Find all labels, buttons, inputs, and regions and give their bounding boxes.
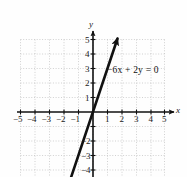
y-tick-label-minus2: −2 xyxy=(81,137,91,146)
x-tick-label-5: 5 xyxy=(162,115,167,124)
x-tick-label-1: 1 xyxy=(105,115,110,124)
x-tick-label-minus1: −1 xyxy=(71,115,81,124)
graph-figure: −5 −4 −3 −2 −1 1 2 3 4 5 1 2 3 4 5 −2 −3… xyxy=(0,0,187,177)
y-tick-label-1: 1 xyxy=(85,94,90,103)
y-axis-label: y xyxy=(89,20,93,29)
y-tick-label-5: 5 xyxy=(85,36,90,45)
x-tick-label-3: 3 xyxy=(134,115,139,124)
x-tick-label-minus2: −2 xyxy=(56,115,66,124)
plotted-line xyxy=(71,39,118,178)
x-tick-label-minus3: −3 xyxy=(42,115,52,124)
x-tick-label-minus5: −5 xyxy=(13,115,23,124)
y-tick-label-minus4: −4 xyxy=(81,166,91,175)
x-axis-label: x xyxy=(176,106,180,115)
y-tick-label-2: 2 xyxy=(85,79,90,88)
y-tick-label-3: 3 xyxy=(85,65,90,74)
equation-annotation: −6x + 2y = 0 xyxy=(107,65,159,75)
y-tick-label-4: 4 xyxy=(85,50,90,59)
y-tick-label-minus3: −3 xyxy=(81,152,91,161)
x-tick-label-minus4: −4 xyxy=(27,115,37,124)
x-tick-label-4: 4 xyxy=(149,115,154,124)
x-tick-label-2: 2 xyxy=(120,115,125,124)
coordinate-plane xyxy=(0,0,187,177)
